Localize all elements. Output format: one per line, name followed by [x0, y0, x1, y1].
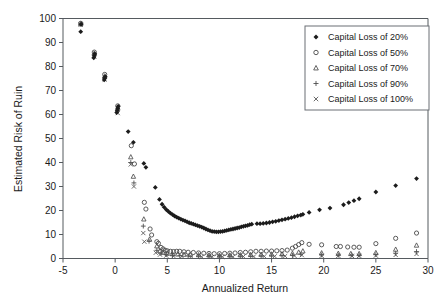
- y-tick-label: 100: [39, 13, 56, 24]
- y-tick-label: 90: [45, 37, 57, 48]
- y-tick-label: 60: [45, 109, 57, 120]
- legend-label: Capital Loss of 90%: [328, 79, 408, 89]
- y-tick-label: 70: [45, 85, 57, 96]
- x-tick-label: -5: [59, 265, 68, 276]
- legend-item-1[interactable]: Capital Loss of 50%: [314, 48, 408, 58]
- legend-item-0[interactable]: Capital Loss of 20%: [313, 32, 408, 42]
- legend-label: Capital Loss of 50%: [328, 48, 408, 58]
- y-tick-label: 10: [45, 229, 57, 240]
- y-tick-label: 40: [45, 157, 57, 168]
- y-tick-label: 20: [45, 205, 57, 216]
- x-tick-label: 15: [266, 265, 278, 276]
- legend-label: Capital Loss of 70%: [328, 63, 408, 73]
- chart-canvas: 0102030405060708090100 -5051015202530 Ca…: [0, 0, 448, 306]
- legend-item-3[interactable]: Capital Loss of 90%: [313, 79, 408, 89]
- legend-item-4[interactable]: Capital Loss of 100%: [314, 94, 413, 104]
- y-tick-label: 80: [45, 61, 57, 72]
- legend-item-2[interactable]: Capital Loss of 70%: [314, 63, 408, 73]
- x-tick-label: 25: [370, 265, 382, 276]
- legend-label: Capital Loss of 20%: [328, 32, 408, 42]
- x-tick-label: 0: [112, 265, 118, 276]
- x-axis-title: Annualized Return: [202, 282, 289, 294]
- chart-legend: Capital Loss of 20%Capital Loss of 50%Ca…: [305, 26, 429, 110]
- y-axis-title: Estimated Risk of Ruin: [12, 86, 24, 192]
- y-tick-label: 0: [50, 253, 56, 264]
- x-tick-label: 30: [422, 265, 434, 276]
- scatter-chart: 0102030405060708090100 -5051015202530 Ca…: [0, 0, 448, 306]
- legend-label: Capital Loss of 100%: [328, 94, 413, 104]
- y-tick-label: 30: [45, 181, 57, 192]
- x-tick-label: 5: [165, 265, 171, 276]
- x-tick-label: 10: [214, 265, 226, 276]
- x-tick-label: 20: [318, 265, 330, 276]
- y-tick-label: 50: [45, 133, 57, 144]
